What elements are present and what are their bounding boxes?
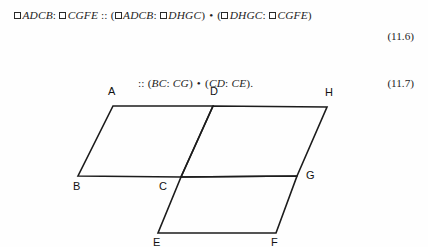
parallelogram-symbol-icon xyxy=(115,12,122,19)
parallelogram-symbol-icon xyxy=(14,12,21,19)
parallelogram-symbol-icon xyxy=(59,12,66,19)
eq16-colon-3: : xyxy=(263,9,266,21)
eq16-proportion-operator: :: xyxy=(101,9,108,21)
vertex-label-d: D xyxy=(210,86,218,97)
equation-11-6: ADCB: CGFE :: (ADCB: DHGC) • (DHGC: CGFE… xyxy=(0,0,428,22)
parallelogram-symbol-icon xyxy=(269,12,276,19)
equation-11-6-expression: ADCB: CGFE :: (ADCB: DHGC) • (DHGC: CGFE… xyxy=(14,9,312,21)
eq16-colon-1: : xyxy=(53,9,56,21)
parallelogram-symbol-icon xyxy=(221,12,228,19)
parallelogram-cgfe xyxy=(158,176,297,233)
eq16-close-paren-1: ) xyxy=(201,9,205,21)
parallelogram-adcb xyxy=(78,106,213,177)
eq16-term-2: CGFE xyxy=(68,9,98,21)
vertex-label-a: A xyxy=(108,86,115,97)
parallelogram-dhgc xyxy=(181,106,327,177)
vertex-label-c: C xyxy=(159,181,167,192)
eq16-term-5: DHGC xyxy=(230,9,263,21)
eq16-multiplication-dot-icon: • xyxy=(208,9,214,21)
geometry-figure: ADHBCGEF xyxy=(0,78,428,247)
vertex-label-e: E xyxy=(153,237,160,247)
eq16-term-1: ADCB xyxy=(23,9,53,21)
eq16-term-4: DHGC xyxy=(168,9,201,21)
eq16-colon-2: : xyxy=(153,9,156,21)
parallelogram-group xyxy=(78,106,327,233)
vertex-label-g: G xyxy=(306,170,315,181)
geometry-figure-svg xyxy=(0,78,428,247)
eq16-term-3: ADCB xyxy=(123,9,153,21)
vertex-label-b: B xyxy=(73,181,80,192)
vertex-label-f: F xyxy=(271,237,278,247)
parallelogram-symbol-icon xyxy=(160,12,167,19)
eq16-close-paren-2: ) xyxy=(308,9,312,21)
eq16-term-6: CGFE xyxy=(277,9,307,21)
vertex-label-h: H xyxy=(325,87,333,98)
equation-block: ADCB: CGFE :: (ADCB: DHGC) • (DHGC: CGFE… xyxy=(0,0,428,44)
equation-11-7: :: (BC: CG) • (CD: CE). (11.7) xyxy=(0,22,428,44)
page-root: ADCB: CGFE :: (ADCB: DHGC) • (DHGC: CGFE… xyxy=(0,0,428,247)
